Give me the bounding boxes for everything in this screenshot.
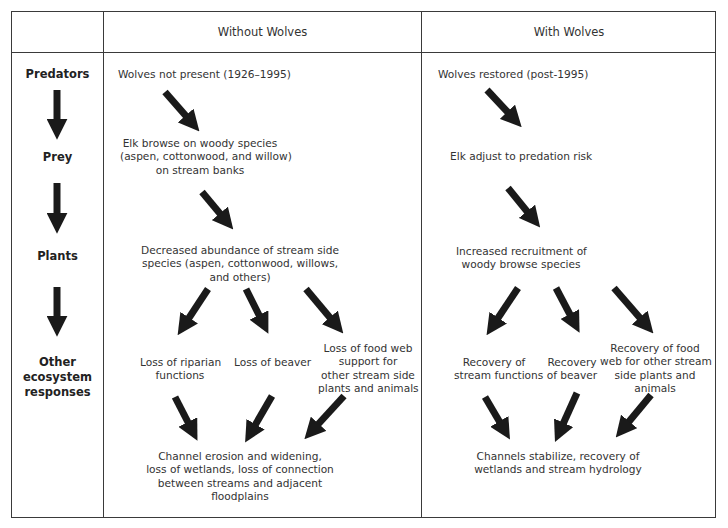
with-response-stream-functions: Recovery of stream functions [454,356,534,383]
without-prey-text: Elk browse on woody species (aspen, cott… [120,137,280,177]
with-response-food-web: Recovery of food web for other stream si… [600,342,710,395]
column-header-with-wolves: With Wolves [422,11,716,52]
with-response-beaver: Recovery of beaver [544,356,600,383]
text-line: Recovery [544,356,600,369]
text-line: Increased recruitment of [456,245,586,258]
text-line: floodplains [140,490,340,503]
column-divider-middle [421,11,422,518]
text-line: web for other stream [600,355,710,368]
text-line: stream functions [454,369,534,382]
text-line: woody browse species [456,258,586,271]
header-divider [11,52,716,53]
column-header-without-wolves: Without Wolves [104,11,421,52]
text-line: plants and animals [318,382,418,395]
text-line: Channels stabilize, recovery of [458,450,658,463]
row-label-other-line2: ecosystem [12,370,103,385]
text-line: Loss of beaver [234,356,308,369]
text-line: loss of wetlands, loss of connection [140,463,340,476]
with-prey-text: Elk adjust to predation risk [450,150,592,163]
row-label-other-line3: responses [12,385,103,400]
row-label-other-line1: Other [12,355,103,370]
without-predators-text: Wolves not present (1926–1995) [118,68,291,81]
without-outcome-text: Channel erosion and widening, loss of we… [140,450,340,503]
table-frame [11,11,716,518]
row-label-prey: Prey [12,150,103,165]
text-line: Recovery of [454,356,534,369]
without-response-beaver: Loss of beaver [234,356,308,369]
text-line: Loss of riparian [140,356,220,369]
with-plants-text: Increased recruitment of woody browse sp… [456,245,586,272]
text-line: on stream banks [120,164,280,177]
text-line: functions [140,369,220,382]
without-response-food-web: Loss of food web support for other strea… [318,342,418,395]
text-line: wetlands and stream hydrology [458,463,658,476]
text-line: animals [600,382,710,395]
text-line: Decreased abundance of stream side [140,244,340,257]
text-line: Recovery of food [600,342,710,355]
text-line: Channel erosion and widening, [140,450,340,463]
without-response-riparian: Loss of riparian functions [140,356,220,383]
with-predators-text: Wolves restored (post-1995) [438,68,588,81]
row-label-predators: Predators [12,67,103,82]
text-line: and others) [140,271,340,284]
text-line: Elk browse on woody species [120,137,280,150]
text-line: side plants and [600,369,710,382]
without-plants-text: Decreased abundance of stream side speci… [140,244,340,284]
text-line: (aspen, cottonwood, and willow) [120,150,280,163]
text-line: of beaver [544,369,600,382]
column-divider-label [103,11,104,518]
with-outcome-text: Channels stabilize, recovery of wetlands… [458,450,658,477]
text-line: other stream side [318,369,418,382]
text-line: Loss of food web [318,342,418,355]
text-line: species (aspen, cottonwood, willows, [140,257,340,270]
text-line: support for [318,355,418,368]
row-label-other-ecosystem-responses: Other ecosystem responses [12,355,103,400]
row-label-plants: Plants [12,249,103,264]
text-line: between streams and adjacent [140,477,340,490]
